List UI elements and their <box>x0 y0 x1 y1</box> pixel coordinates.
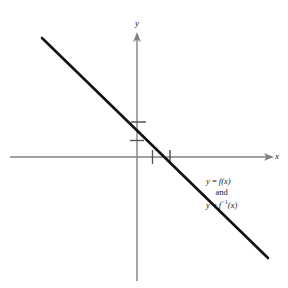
annotation-line-function: y = f(x) <box>206 176 237 187</box>
annotation-equals-1: = <box>210 176 219 186</box>
function-line <box>42 38 268 258</box>
annotation-arg-2: (x) <box>228 200 237 210</box>
annotation-inverse-exponent: −1 <box>221 198 228 205</box>
y-axis-label: y <box>135 19 139 28</box>
annotation-equals-2: = <box>210 200 219 210</box>
annotation-line-inverse: y = f−1(x) <box>206 197 237 210</box>
plot-canvas <box>0 0 288 288</box>
x-axis-label: x <box>275 152 279 161</box>
curve-annotation: y = f(x) and y = f−1(x) <box>206 176 237 210</box>
annotation-arg-1: (x) <box>221 176 230 186</box>
graph-figure: y x y = f(x) and y = f−1(x) <box>0 0 288 288</box>
annotation-line-and: and <box>206 187 237 198</box>
